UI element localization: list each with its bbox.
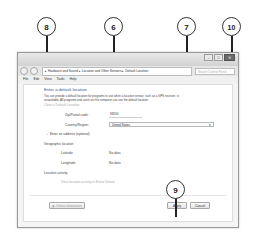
online-info-button[interactable]: ◉ Online information: [49, 202, 85, 209]
event-viewer-link[interactable]: View location activity in Event Viewer: [61, 180, 115, 184]
menu-view[interactable]: View: [44, 76, 51, 83]
minimize-button[interactable]: –: [204, 54, 213, 61]
page-title: Enter a default location: [44, 87, 87, 92]
breadcrumb[interactable]: ▸ Hardware and Sound ▸ Location and Othe…: [42, 67, 192, 76]
callout-10: 10: [222, 17, 241, 36]
latitude-label: Latitude: [61, 151, 73, 155]
title-bar: – □ ✕: [18, 53, 238, 66]
footer-divider: [30, 195, 226, 196]
zip-input[interactable]: 98200: [109, 112, 142, 118]
expand-address-toggle[interactable]: ⌄ Enter an address (optional): [46, 132, 90, 136]
callout-7: 7: [177, 17, 196, 36]
apply-button[interactable]: Apply: [167, 202, 187, 209]
menu-help[interactable]: Help: [70, 76, 77, 83]
geo-heading: Geographic location: [44, 142, 73, 146]
menu-tools[interactable]: Tools: [57, 76, 65, 83]
control-panel-window: – □ ✕ ▸ Hardware and Sound ▸ Location an…: [17, 52, 239, 228]
callout-9-leader: [175, 197, 177, 217]
callout-6: 6: [104, 17, 123, 36]
menu-file[interactable]: File: [23, 76, 28, 83]
zip-label: Zip/Postal code:: [65, 113, 89, 117]
back-button[interactable]: [20, 67, 28, 75]
activity-heading: Location activity: [44, 171, 67, 175]
longitude-label: Longitude: [61, 161, 75, 165]
description-line-2: unavailable. All programs and users on t…: [44, 98, 149, 102]
country-select[interactable]: United States ▾: [109, 122, 214, 127]
cancel-button[interactable]: Cancel: [190, 202, 210, 209]
latitude-value: No data: [109, 151, 121, 155]
search-input[interactable]: Search Control Panel: [195, 68, 235, 75]
longitude-value: No data: [109, 161, 121, 165]
clear-default-location-link[interactable]: Clear a Default Location: [44, 103, 79, 107]
menu-bar: File Edit View Tools Help: [18, 76, 238, 83]
menu-edit[interactable]: Edit: [33, 76, 39, 83]
address-toggle-label: Enter an address (optional): [50, 132, 90, 136]
forward-button[interactable]: [30, 67, 38, 75]
chevron-down-icon: ▾: [209, 123, 211, 128]
online-info-label: Online information: [56, 204, 82, 208]
callout-9: 9: [166, 180, 185, 199]
country-value: United States: [112, 123, 130, 127]
address-bar: ▸ Hardware and Sound ▸ Location and Othe…: [18, 66, 238, 76]
maximize-button[interactable]: □: [214, 54, 223, 61]
close-button[interactable]: ✕: [224, 54, 235, 61]
content-pane: Enter a default location You can provide…: [23, 84, 233, 222]
callout-8: 8: [37, 17, 56, 36]
country-label: Country/Region:: [65, 123, 89, 127]
